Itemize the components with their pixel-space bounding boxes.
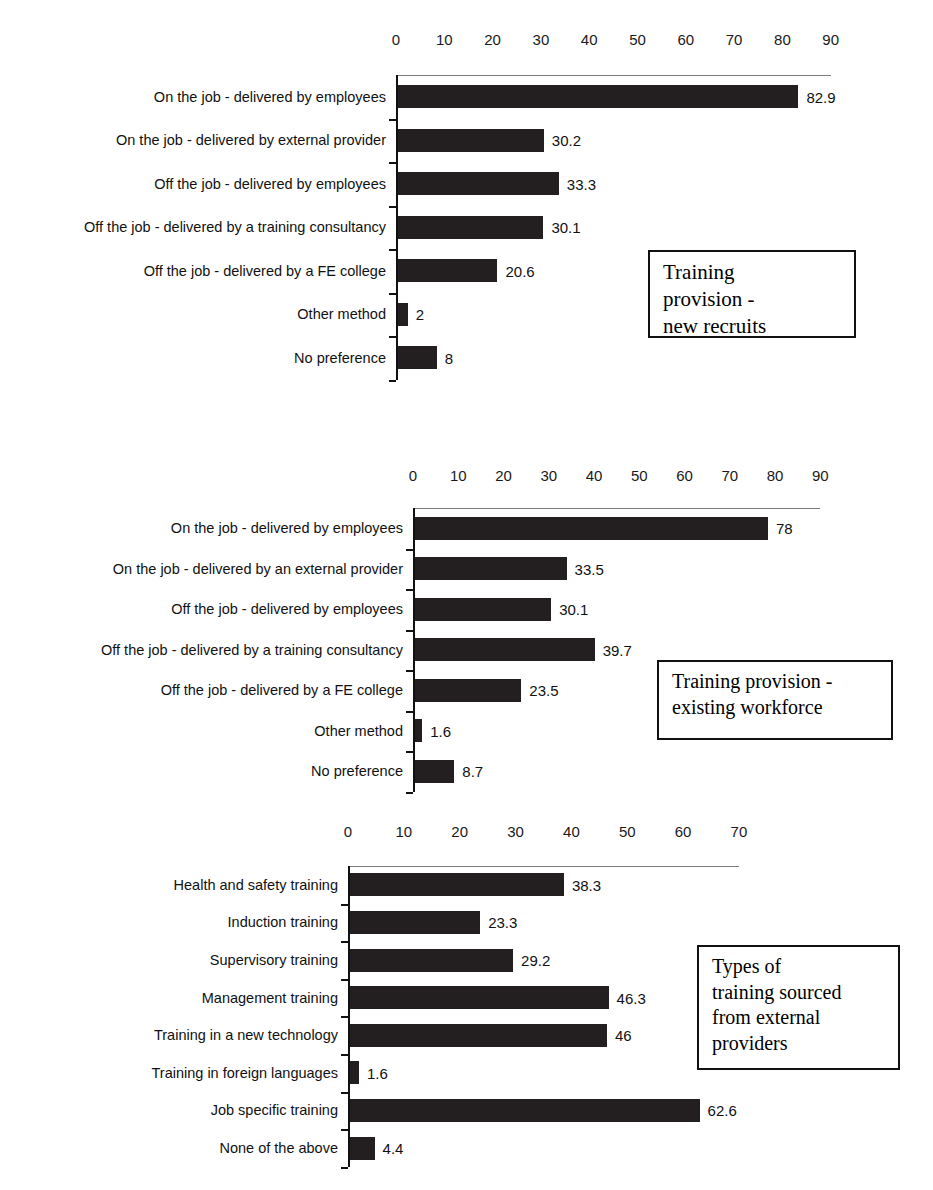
- category-label: Job specific training: [0, 1103, 338, 1118]
- x-axis-tick-labels: 0102030405060708090: [0, 30, 933, 50]
- bar: [350, 986, 609, 1009]
- x-tick-label: 30: [533, 30, 550, 50]
- x-tick-label: 60: [675, 822, 692, 842]
- plot-top-rule: [413, 508, 820, 509]
- y-axis-tickmark: [389, 380, 396, 382]
- category-label: Health and safety training: [0, 878, 338, 893]
- category-label: Off the job - delivered by a FE college: [0, 683, 403, 698]
- bar: [398, 216, 543, 239]
- x-tick-label: 70: [731, 822, 748, 842]
- bar-value-label: 78: [776, 521, 793, 536]
- category-label: Management training: [0, 991, 338, 1006]
- y-axis-tickmark: [341, 979, 348, 981]
- chart-caption-text: Training provision - new recruits: [663, 259, 844, 340]
- bar: [415, 679, 521, 702]
- bar-value-label: 39.7: [603, 643, 632, 658]
- category-label: Off the job - delivered by employees: [0, 602, 403, 617]
- category-label: None of the above: [0, 1141, 338, 1156]
- x-tick-label: 0: [392, 30, 400, 50]
- bar: [415, 760, 454, 783]
- bar-value-label: 23.5: [529, 683, 558, 698]
- bar: [415, 719, 422, 742]
- x-tick-label: 70: [721, 466, 738, 486]
- y-axis-tickmark: [341, 904, 348, 906]
- y-axis-tickmark: [406, 751, 413, 753]
- bar-value-label: 29.2: [521, 953, 550, 968]
- bar-value-label: 23.3: [488, 915, 517, 930]
- bar: [350, 1061, 359, 1084]
- plot-top-rule: [348, 866, 739, 867]
- x-tick-label: 40: [581, 30, 598, 50]
- x-axis-tick-labels: 010203040506070: [0, 822, 933, 842]
- y-axis-tickmark: [406, 589, 413, 591]
- category-label: Off the job - delivered by employees: [0, 177, 386, 192]
- y-axis-tickmark: [406, 630, 413, 632]
- x-tick-label: 30: [507, 822, 524, 842]
- x-tick-label: 10: [396, 822, 413, 842]
- bar-value-label: 62.6: [708, 1103, 737, 1118]
- category-label: Other method: [0, 307, 386, 322]
- y-axis-tickmark: [406, 792, 413, 794]
- category-label: On the job - delivered by an external pr…: [0, 562, 403, 577]
- chart-caption-box: Types of training sourced from external …: [697, 945, 900, 1070]
- x-tick-label: 50: [629, 30, 646, 50]
- y-axis-tickmark: [406, 549, 413, 551]
- bar-value-label: 8: [445, 351, 453, 366]
- bar: [398, 129, 544, 152]
- category-label: Off the job - delivered by a FE college: [0, 264, 386, 279]
- bar: [398, 259, 497, 282]
- bar-value-label: 46: [615, 1028, 632, 1043]
- bar: [398, 303, 408, 326]
- bar: [350, 949, 513, 972]
- x-tick-label: 80: [774, 30, 791, 50]
- y-axis-tickmark: [389, 293, 396, 295]
- y-axis-tickmark: [389, 336, 396, 338]
- category-label: On the job - delivered by employees: [0, 521, 403, 536]
- bar-value-label: 30.2: [552, 133, 581, 148]
- category-label: Off the job - delivered by a training co…: [0, 220, 386, 235]
- bar: [398, 172, 559, 195]
- category-label: Off the job - delivered by a training co…: [0, 643, 403, 658]
- x-tick-label: 10: [436, 30, 453, 50]
- x-tick-label: 70: [726, 30, 743, 50]
- x-tick-label: 90: [812, 466, 829, 486]
- category-label: On the job - delivered by employees: [0, 90, 386, 105]
- category-label: Training in foreign languages: [0, 1066, 338, 1081]
- x-tick-label: 20: [451, 822, 468, 842]
- chart-caption-box: Training provision - existing workforce: [657, 660, 893, 740]
- bar: [398, 346, 437, 369]
- bar: [350, 1099, 700, 1122]
- y-axis-tickmark: [389, 249, 396, 251]
- bar: [350, 1024, 607, 1047]
- bar: [415, 598, 551, 621]
- y-axis-tickmark: [341, 1129, 348, 1131]
- bar: [415, 517, 768, 540]
- chart-caption-text: Training provision - existing workforce: [672, 669, 881, 720]
- bar: [398, 85, 798, 108]
- bar: [350, 873, 564, 896]
- bar: [415, 638, 595, 661]
- y-axis-tickmark: [406, 670, 413, 672]
- x-tick-label: 0: [344, 822, 352, 842]
- bar-value-label: 82.9: [806, 90, 835, 105]
- bar-value-label: 33.5: [575, 562, 604, 577]
- category-label: Other method: [0, 724, 403, 739]
- chart-caption-box: Training provision - new recruits: [648, 250, 856, 338]
- bar: [350, 911, 480, 934]
- category-label: Induction training: [0, 915, 338, 930]
- x-tick-label: 30: [540, 466, 557, 486]
- category-label: On the job - delivered by external provi…: [0, 133, 386, 148]
- x-tick-label: 0: [409, 466, 417, 486]
- x-tick-label: 10: [450, 466, 467, 486]
- category-label: Supervisory training: [0, 953, 338, 968]
- y-axis-tickmark: [341, 941, 348, 943]
- y-axis-tickmark: [406, 711, 413, 713]
- y-axis-tickmark: [389, 119, 396, 121]
- x-tick-label: 50: [619, 822, 636, 842]
- bar-value-label: 38.3: [572, 878, 601, 893]
- category-label: Training in a new technology: [0, 1028, 338, 1043]
- bar-value-label: 30.1: [551, 220, 580, 235]
- bar-value-label: 8.7: [462, 764, 483, 779]
- y-axis-tickmark: [341, 1054, 348, 1056]
- bar-value-label: 2: [416, 307, 424, 322]
